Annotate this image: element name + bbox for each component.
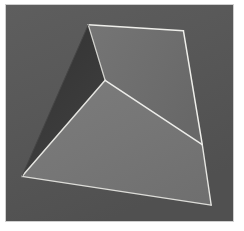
render-frame (5, 4, 234, 222)
scene-root (0, 0, 244, 231)
render-canvas (6, 5, 233, 221)
